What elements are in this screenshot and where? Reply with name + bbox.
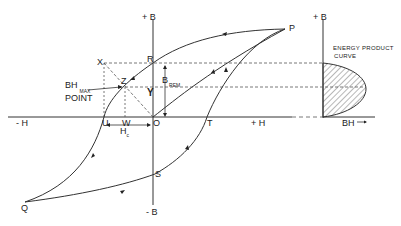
point-z: Z — [121, 77, 127, 86]
label-bh: BH — [342, 119, 355, 128]
energy-product-label-line1: ENERGY PRODUCT — [333, 45, 394, 51]
bhmax-point-label: POINT — [65, 94, 93, 103]
brem-label: BREM — [162, 76, 179, 85]
label-minus-b: - B — [146, 208, 158, 217]
point-y: Y — [147, 88, 154, 97]
point-o: O — [153, 119, 160, 128]
point-s: S — [155, 170, 161, 179]
point-x: X — [97, 58, 103, 67]
hc-label: Hc — [120, 127, 129, 136]
point-u: U — [102, 119, 109, 128]
hysteresis-diagram: + B - B - H + H + B BH P Q R S T U W X Y… — [0, 0, 401, 226]
diagram-graphics — [0, 0, 401, 226]
label-minus-h: - H — [16, 119, 28, 128]
initial-curve — [153, 29, 285, 117]
label-right-plus-b: + B — [313, 13, 327, 22]
energy-product-curve — [323, 63, 366, 117]
energy-product-label-line2: CURVE — [334, 53, 356, 59]
bhmax-label: BHMAX — [65, 81, 88, 90]
point-q: Q — [21, 204, 28, 213]
point-t: T — [207, 119, 213, 128]
label-plus-b: + B — [142, 13, 156, 22]
point-p: P — [289, 24, 295, 33]
point-r: R — [147, 55, 154, 64]
label-plus-h: + H — [251, 119, 265, 128]
